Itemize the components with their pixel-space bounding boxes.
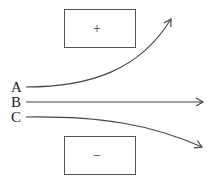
particle-a: A	[11, 19, 171, 95]
particle-c-label: C	[11, 109, 21, 125]
particle-c-trajectory	[26, 117, 202, 147]
positive-sign: +	[93, 21, 101, 36]
negative-sign: −	[93, 148, 101, 163]
positive-plate: +	[65, 10, 136, 48]
deflection-diagram: + − A B C	[0, 0, 216, 184]
particle-b: B	[11, 94, 203, 110]
particle-b-label: B	[11, 94, 21, 110]
negative-plate: −	[65, 137, 136, 175]
particle-a-label: A	[11, 79, 22, 95]
particle-c: C	[11, 109, 202, 147]
